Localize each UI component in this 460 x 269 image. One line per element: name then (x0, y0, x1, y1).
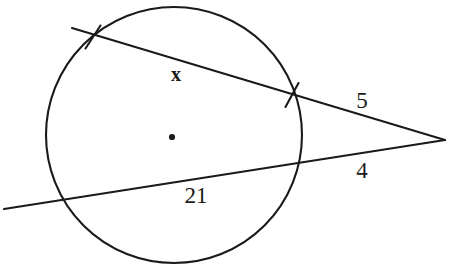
lower-secant-line (4, 140, 445, 209)
label-chord-x: x (171, 64, 181, 84)
label-external-segment-lower: 4 (356, 159, 368, 182)
geometry-canvas (0, 0, 460, 269)
circle-center-dot (169, 134, 175, 140)
geometry-figure: x 5 4 21 (0, 0, 460, 269)
upper-secant-line (72, 28, 445, 140)
label-external-segment-upper: 5 (356, 89, 368, 112)
tick-mark-upper-left-intersection (86, 26, 101, 49)
label-chord-21: 21 (185, 184, 208, 207)
